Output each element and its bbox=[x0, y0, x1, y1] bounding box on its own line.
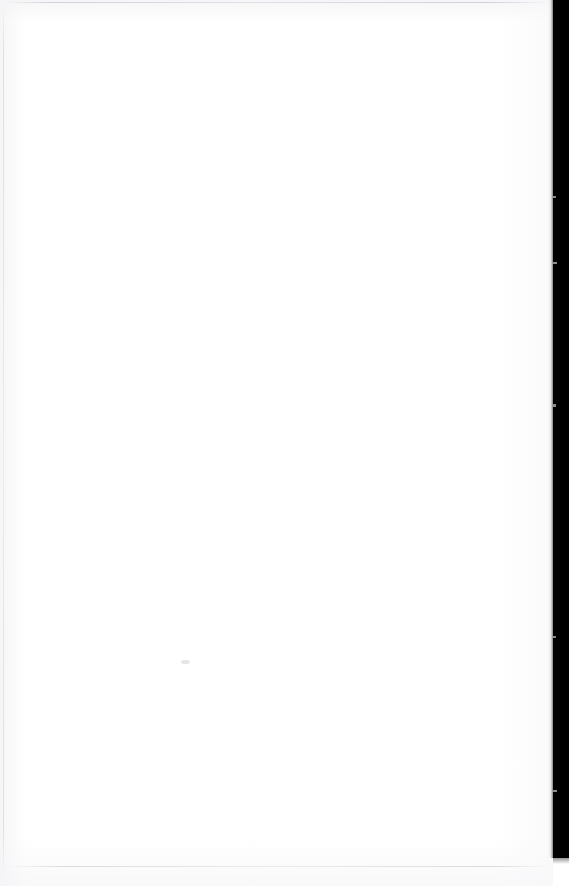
page-content-area bbox=[40, 56, 510, 836]
right-edge-scanner-gutter bbox=[553, 0, 569, 858]
scanned-page-frame bbox=[0, 0, 569, 886]
page-sheet bbox=[0, 0, 553, 886]
